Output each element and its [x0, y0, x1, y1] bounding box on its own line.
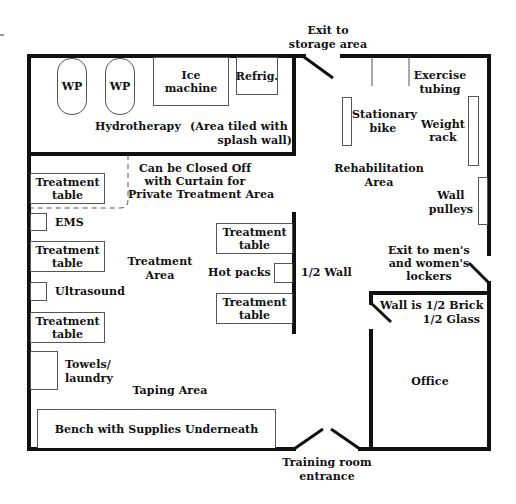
treatment-table-4: Treatmenttable	[216, 223, 293, 254]
entrance-door-right	[331, 429, 360, 449]
wall-pulleys-line1: Wall	[426, 189, 476, 202]
tiled-note-line2: splash wall)	[212, 134, 292, 147]
office-label: Office	[380, 375, 480, 388]
weight-rack-line1: Weight	[418, 118, 468, 131]
treatment-table-2: Treatmenttable	[30, 241, 105, 272]
treatment-table-4-line1: Treatment	[222, 226, 286, 239]
treatment-table-5-line1: Treatment	[222, 296, 286, 309]
exercise-tubing-line1: Exercise	[412, 69, 468, 82]
treatment-table-5: Treatmenttable	[216, 293, 293, 324]
whirlpool-2-label: WP	[110, 80, 131, 93]
treatment-table-3-line2: table	[52, 328, 83, 341]
storage-exit-line2: storage area	[268, 38, 388, 51]
locker-exit-line2: and women's	[374, 257, 484, 270]
whirlpool-1-label: WP	[62, 80, 83, 93]
refrigerator-label: Refrig.	[236, 70, 278, 83]
rehab-area-line1: Rehabilitation	[334, 162, 424, 175]
wall-pulleys	[478, 177, 488, 225]
locker-exit-line1: Exit to men's	[374, 244, 484, 257]
supply-bench: Bench with Supplies Underneath	[37, 409, 276, 448]
treatment-table-4-line2: table	[239, 239, 270, 252]
treatment-table-2-line1: Treatment	[35, 244, 99, 257]
wall-pulleys-line2: pulleys	[426, 203, 476, 216]
treatment-table-3: Treatmenttable	[30, 312, 105, 343]
entrance-line1: Training room	[272, 456, 382, 469]
hydrotherapy-label: Hydrotherapy	[95, 120, 181, 133]
treatment-table-1-line1: Treatment	[35, 176, 99, 189]
ems-label: EMS	[55, 216, 84, 229]
ice-machine: Ice machine	[153, 57, 229, 106]
treatment-table-3-line1: Treatment	[35, 315, 99, 328]
towels-line1: Towels/	[65, 358, 111, 371]
stationary-bike	[342, 97, 352, 146]
ultrasound-unit	[30, 282, 47, 301]
locker-exit-line3: lockers	[374, 270, 484, 283]
ice-machine-label: Ice machine	[161, 69, 221, 95]
treatment-table-1-line2: table	[52, 189, 83, 202]
curtain-note-line2: with Curtain for	[135, 175, 255, 188]
weight-rack	[468, 96, 479, 166]
ultrasound-label: Ultrasound	[55, 285, 125, 298]
treatment-table-5-line2: table	[239, 309, 270, 322]
stationary-bike-line1: Stationary	[352, 108, 414, 121]
curtain-note-line3: Private Treatment Area	[128, 188, 268, 201]
weight-rack-line2: rack	[418, 131, 468, 144]
taping-area-label: Taping Area	[120, 384, 220, 397]
treatment-area-line2: Area	[125, 269, 195, 282]
supply-bench-label: Bench with Supplies Underneath	[55, 423, 258, 436]
exercise-tubing-line2: tubing	[412, 83, 468, 96]
rehab-area-line2: Area	[334, 176, 424, 189]
hot-packs-label: Hot packs	[208, 266, 271, 279]
treatment-table-1: Treatmenttable	[30, 173, 105, 204]
refrigerator: Refrig.	[236, 57, 278, 95]
curtain-note-line1: Can be Closed Off	[135, 162, 255, 175]
storage-exit-line1: Exit to	[288, 24, 368, 37]
entrance-line2: entrance	[272, 470, 382, 483]
treatment-area-line1: Treatment	[125, 255, 195, 268]
stationary-bike-line2: bike	[352, 122, 414, 135]
half-wall-label: 1/2 Wall	[301, 266, 352, 279]
towels-line2: laundry	[65, 372, 113, 385]
towels-laundry-bin	[30, 351, 58, 390]
entrance-door-left	[294, 429, 323, 449]
office-wall-note-line1: Wall is 1/2 Brick	[380, 299, 480, 312]
hot-packs-unit	[274, 263, 293, 283]
tiled-note-line1: (Area tiled with	[190, 120, 288, 133]
office-wall-note-line2: 1/2 Glass	[380, 313, 480, 326]
storage-door	[304, 57, 333, 78]
treatment-table-2-line2: table	[52, 257, 83, 270]
whirlpool-2: WP	[105, 58, 135, 115]
ems-unit	[30, 213, 47, 231]
whirlpool-1: WP	[57, 58, 87, 115]
